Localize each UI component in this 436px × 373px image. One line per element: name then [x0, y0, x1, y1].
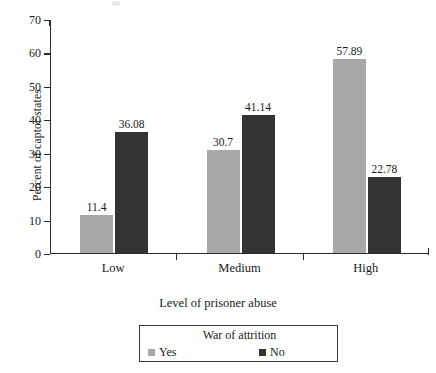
x-group-label-medium: Medium: [180, 261, 300, 276]
legend-item-label: Yes: [159, 345, 176, 360]
x-axis-right-cap: [428, 248, 429, 255]
legend: War of attrition YesNo: [139, 325, 338, 362]
bar-medium-no: [242, 115, 275, 253]
x-group-label-low: Low: [53, 261, 173, 276]
bar-low-yes: [80, 215, 113, 253]
legend-swatch-icon: [259, 349, 266, 356]
y-tick: [44, 254, 50, 255]
y-tick-label: 50: [0, 81, 41, 93]
x-axis-title: Level of prisoner abuse: [0, 296, 436, 311]
scan-artifact: [112, 1, 120, 6]
y-tick-label: 70: [0, 14, 41, 26]
bar-value-label: 57.89: [319, 46, 379, 58]
bar-high-no: [368, 177, 401, 253]
y-axis-top-cap: [49, 20, 50, 26]
legend-entries: YesNo: [140, 345, 339, 361]
y-tick-label: 30: [0, 148, 41, 160]
y-tick-label: 60: [0, 47, 41, 59]
x-group-label-high: High: [306, 261, 426, 276]
legend-title: War of attrition: [140, 328, 339, 343]
legend-swatch-icon: [148, 349, 155, 356]
y-tick-label: 0: [0, 248, 41, 260]
legend-item-yes[interactable]: Yes: [148, 345, 176, 360]
plot-area: 11.436.0830.741.1457.8922.78: [50, 20, 429, 254]
x-tick: [303, 254, 304, 260]
bar-high-yes: [333, 59, 366, 253]
bar-value-label: 36.08: [102, 119, 162, 131]
bar-chart: Percent of captor states 010203040506070…: [0, 0, 436, 373]
legend-item-label: No: [270, 345, 285, 360]
bar-value-label: 22.78: [354, 164, 414, 176]
bar-medium-yes: [207, 150, 240, 253]
y-tick-label: 10: [0, 215, 41, 227]
bar-low-no: [115, 132, 148, 253]
y-tick-label: 20: [0, 181, 41, 193]
y-tick-label: 40: [0, 114, 41, 126]
legend-item-no[interactable]: No: [259, 345, 285, 360]
x-tick: [176, 254, 177, 260]
bar-value-label: 41.14: [228, 102, 288, 114]
